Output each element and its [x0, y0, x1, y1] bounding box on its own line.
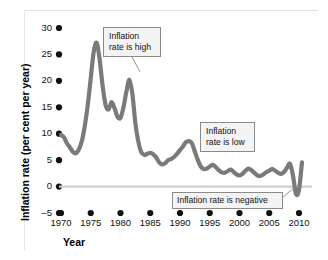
y-tick-dot: [56, 25, 62, 31]
annotation-inflation-negative: Inflation rate is negative: [172, 192, 283, 209]
callout-high-leader: [132, 57, 140, 72]
x-tick-dot: [88, 210, 94, 216]
chart-canvas: –5051015202530 1970197519801985199019952…: [0, 0, 328, 260]
x-axis-tick-labels: 197019751980198519901995200020052010: [50, 217, 309, 228]
x-tick-dot: [296, 210, 302, 216]
x-tick-label: 1980: [110, 217, 131, 228]
x-tick-dot: [58, 210, 64, 216]
x-tick-label: 2010: [288, 217, 309, 228]
y-tick-label: 15: [41, 101, 52, 112]
x-tick-dot: [207, 210, 213, 216]
y-axis-tick-labels: –5051015202530: [41, 22, 52, 218]
annotation-inflation-high: Inflation rate is high: [103, 27, 161, 57]
x-tick-dot: [117, 210, 123, 216]
y-tick-dot: [56, 78, 62, 84]
x-tick-dot: [177, 210, 183, 216]
x-tick-dot: [147, 210, 153, 216]
y-tick-dot: [56, 51, 62, 57]
inflation-rate-chart-figure: –5051015202530 1970197519801985199019952…: [0, 0, 328, 260]
y-tick-label: 5: [47, 154, 52, 165]
y-tick-label: 25: [41, 48, 52, 59]
x-tick-dot: [266, 210, 272, 216]
y-tick-label: –5: [41, 207, 52, 218]
x-tick-label: 1970: [50, 217, 71, 228]
y-tick-label: 30: [41, 22, 52, 33]
x-tick-label: 1975: [80, 217, 101, 228]
x-tick-label: 2000: [229, 217, 250, 228]
y-tick-label: 0: [47, 180, 52, 191]
x-tick-label: 2005: [259, 217, 280, 228]
y-axis-title: Inflation rate (per cent per year): [19, 63, 31, 221]
x-axis-title: Year: [63, 236, 85, 248]
y-tick-label: 20: [41, 74, 52, 85]
y-tick-dot: [56, 157, 62, 163]
x-tick-label: 1995: [199, 217, 220, 228]
inflation-rate-line: [61, 43, 302, 196]
x-tick-label: 1990: [169, 217, 190, 228]
x-tick-dot: [236, 210, 242, 216]
y-tick-dot: [56, 104, 62, 110]
y-tick-label: 10: [41, 127, 52, 138]
x-axis-tick-dots: [58, 210, 302, 216]
x-tick-label: 1985: [140, 217, 161, 228]
annotation-inflation-low: Inflation rate is low: [200, 122, 255, 152]
